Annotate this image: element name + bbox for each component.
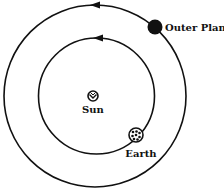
- earth-label: Earth: [125, 148, 157, 159]
- sun-icon: [88, 91, 98, 101]
- outer-planet-label: Outer Planet: [165, 22, 224, 33]
- sun-label: Sun: [82, 104, 104, 115]
- earth-orbit-arrow-icon: [93, 35, 103, 42]
- earth-icon: [129, 128, 143, 142]
- outer-planet-icon: [148, 20, 163, 35]
- orbit-diagram: Sun Earth Outer Planet: [0, 0, 224, 190]
- outer-orbit-arrow-icon: [90, 2, 100, 9]
